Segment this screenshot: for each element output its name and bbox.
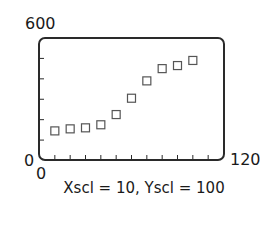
window-settings-caption: Xscl = 10, Yscl = 100 [0,179,278,197]
data-point-square [82,124,90,132]
data-point-square [128,94,136,102]
data-point-square [97,121,105,129]
data-point-square [112,111,120,119]
data-point-square [51,127,59,135]
data-point-square [143,77,151,85]
data-points [51,56,197,134]
data-point-square [66,125,74,133]
axis-ticks [40,58,208,159]
data-point-square [174,62,182,70]
data-point-square [189,56,197,64]
data-point-square [158,65,166,73]
